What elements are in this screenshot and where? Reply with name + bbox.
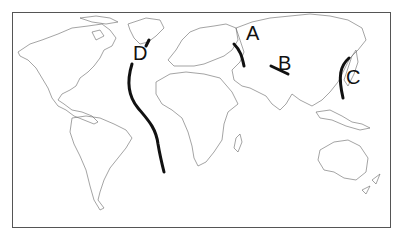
africa-outline xyxy=(156,72,238,166)
southeast-asia-islands-outline xyxy=(316,110,370,130)
australia-outline xyxy=(318,140,368,180)
label-a: A xyxy=(246,22,260,44)
south-america-outline xyxy=(70,116,132,210)
greenland-outline xyxy=(128,18,164,44)
world-map: D A B C xyxy=(0,0,400,236)
label-c: C xyxy=(346,66,360,88)
madagascar-outline xyxy=(234,134,242,152)
north-america-outline xyxy=(18,24,116,124)
new-zealand-outline xyxy=(362,174,380,194)
arctic-islands-outline xyxy=(80,16,118,40)
label-b: B xyxy=(278,52,291,74)
europe-outline xyxy=(168,24,238,66)
label-d: D xyxy=(133,42,147,64)
